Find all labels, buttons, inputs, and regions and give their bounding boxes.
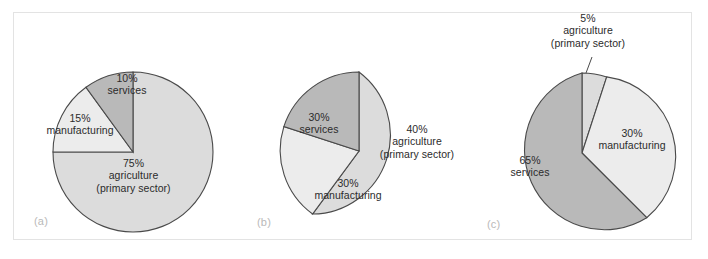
label-c-services: 65% services bbox=[493, 154, 567, 179]
panel-letter-b: (b) bbox=[257, 216, 271, 228]
label-c-agriculture: 5% agriculture (primary sector) bbox=[532, 12, 644, 49]
label-b-manufacturing: 30% manufacturing bbox=[302, 177, 394, 202]
label-b-agriculture: 40% agriculture (primary sector) bbox=[364, 123, 470, 160]
pie-chart-panel-c: 5% agriculture (primary sector) 30% manu… bbox=[466, 13, 693, 241]
label-c-manufacturing: 30% manufacturing bbox=[586, 127, 678, 152]
label-a-manufacturing: 15% manufacturing bbox=[34, 112, 126, 137]
panel-letter-a: (a) bbox=[34, 215, 48, 227]
pie-chart-panel-a: 10% services 15% manufacturing 75% agric… bbox=[14, 13, 240, 241]
panel-letter-c: (c) bbox=[487, 218, 500, 230]
figure-frame: 10% services 15% manufacturing 75% agric… bbox=[13, 12, 692, 240]
label-a-services: 10% services bbox=[92, 72, 162, 97]
label-b-services: 30% services bbox=[282, 111, 356, 136]
pie-chart-panel-b: 30% services 30% manufacturing 40% agric… bbox=[240, 13, 466, 241]
leader-line-c-agriculture bbox=[586, 57, 592, 73]
label-a-agriculture: 75% agriculture (primary sector) bbox=[76, 157, 191, 194]
